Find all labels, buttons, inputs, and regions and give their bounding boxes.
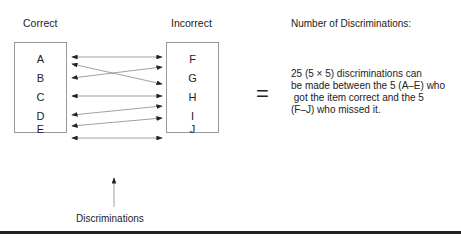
result-line: got the item correct and the 5 [291,92,456,104]
discrimination-arrows [0,0,461,248]
bottom-rule [0,231,461,234]
discriminations-label: Discriminations [76,213,144,224]
result-line: be made between the 5 (A–E) who [291,80,456,92]
result-line: 25 (5 × 5) discriminations can [291,68,456,80]
result-line: (F–J) who missed it. [291,104,456,116]
equals-sign: = [256,81,269,107]
result-description: 25 (5 × 5) discriminations can be made b… [291,68,456,116]
